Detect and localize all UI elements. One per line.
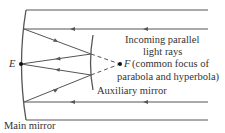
point-e [19,62,23,66]
auxiliary-mirror [91,35,94,90]
to-e-arrow-icons [55,57,61,72]
main-mirror-label: Main mirror [4,121,56,132]
reflected-arrow-icons [53,38,58,92]
dashed-to-focus-bottom [91,64,120,75]
focus-desc-2: parabola and hyperbola) [117,72,219,83]
aux-mirror-label: Auxiliary mirror [97,86,167,97]
incoming-label-2: light rays [143,47,182,58]
point-f [118,62,122,66]
reflected-ray-bottom [24,75,91,102]
dashed-to-focus-top [91,54,120,64]
point-f-label: F [124,59,130,70]
focus-desc-1: (common focus of [132,59,209,70]
incoming-label-1: Incoming parallel [125,35,199,46]
point-e-label: E [9,59,15,70]
